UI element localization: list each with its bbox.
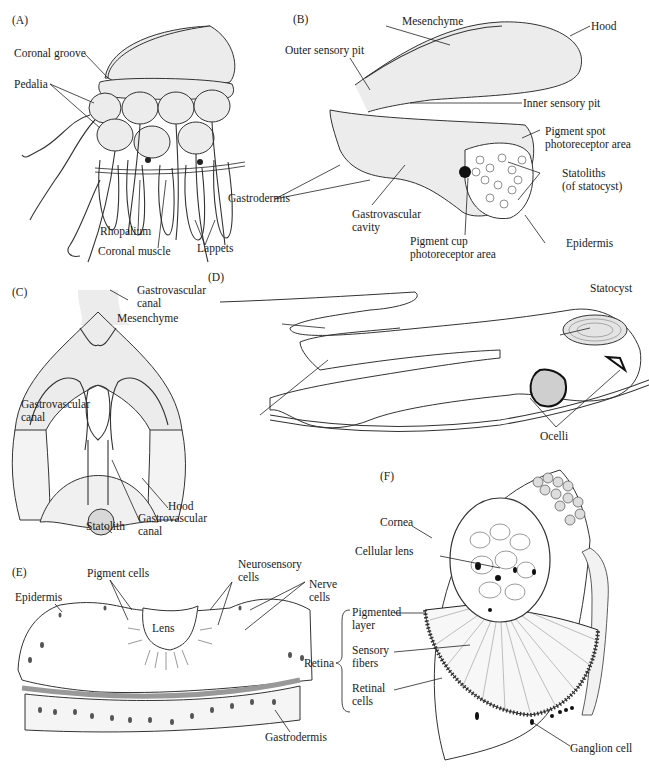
label-pigment-spot: Pigment spot <box>545 125 605 138</box>
panel-b: (B) Mesenchyme Hood Outer sensory pit In… <box>290 0 649 290</box>
label-layer: layer <box>352 619 375 632</box>
label-retina: Retina <box>304 657 334 670</box>
label-of-statocyst: (of statocyst) <box>562 180 622 193</box>
label-hood-b: Hood <box>591 20 617 33</box>
label-pigment-cells: Pigment cells <box>87 567 149 580</box>
label-gastrovascular-c-top: Gastrovascular <box>137 284 206 297</box>
label-canal-d: canal <box>21 411 45 424</box>
label-gastrodermis-b: Gastrodermis <box>228 192 290 205</box>
panel-c-tag: (C) <box>12 286 27 298</box>
label-coronal-muscle: Coronal muscle <box>98 245 171 258</box>
label-gastrovascular-b: Gastrovascular <box>352 208 421 221</box>
label-pedalia: Pedalia <box>14 78 48 91</box>
label-statocyst: Statocyst <box>590 282 632 295</box>
label-mesenchyme-d: Mesenchyme <box>117 312 178 325</box>
label-cavity-b: cavity <box>352 221 380 234</box>
panel-a-tag: (A) <box>12 14 28 26</box>
label-pigment-cup-area: photoreceptor area <box>410 248 496 261</box>
panel-c: (C) Gastrovascular canal Hood Statolith … <box>0 290 220 570</box>
panel-d-tag: (D) <box>208 271 224 283</box>
label-sensory: Sensory <box>352 644 389 657</box>
panel-f-tag: (F) <box>380 470 394 482</box>
label-nerve: Nerve <box>309 578 337 591</box>
panel-e-tag: (E) <box>12 566 27 578</box>
label-pigment-cup: Pigment cup <box>410 235 468 248</box>
label-gastrovascular-d: Gastrovascular <box>21 398 90 411</box>
label-pigment-spot-area: photoreceptor area <box>545 138 631 151</box>
panel-b-tag: (B) <box>293 13 308 25</box>
label-pigmented: Pigmented <box>352 606 401 619</box>
label-canal-c-bottom: canal <box>138 525 162 538</box>
panel-a: (A) Coronal groove Pedalia Rhopalium Cor… <box>0 0 290 290</box>
label-neurosensory-cells: cells <box>238 571 259 584</box>
ocelli-section-drawing <box>200 280 649 470</box>
label-coronal-groove: Coronal groove <box>14 47 86 60</box>
label-canal-c-top: canal <box>137 297 161 310</box>
label-gastrodermis-e: Gastrodermis <box>265 731 327 744</box>
label-epidermis-b: Epidermis <box>566 237 613 250</box>
panel-f: (F) Cornea Cellular lens Pigmented layer… <box>370 460 649 769</box>
panel-d: (D) Statocyst Mesenchyme Gastrovascular … <box>200 280 649 470</box>
label-neurosensory: Neurosensory <box>238 558 302 571</box>
label-epidermis-e: Epidermis <box>15 591 62 604</box>
label-ganglion-cell: Ganglion cell <box>570 742 632 755</box>
label-gastrovascular-c-bottom: Gastrovascular <box>138 512 207 525</box>
label-lens-e: Lens <box>152 622 174 635</box>
label-retinal-cells: cells <box>352 695 373 708</box>
label-cornea: Cornea <box>380 516 413 529</box>
label-retinal: Retinal <box>352 682 385 695</box>
label-cellular-lens: Cellular lens <box>355 545 413 558</box>
label-rhopalium: Rhopalium <box>100 225 151 238</box>
label-nerve-cells: cells <box>309 591 330 604</box>
label-statolith-c: Statolith <box>86 520 125 533</box>
label-ocelli: Ocelli <box>540 430 568 443</box>
label-outer-sensory-pit: Outer sensory pit <box>285 44 364 57</box>
label-lappets: Lappets <box>197 242 233 255</box>
label-mesenchyme-b: Mesenchyme <box>402 15 463 28</box>
label-inner-sensory-pit: Inner sensory pit <box>523 97 600 110</box>
label-statoliths: Statoliths <box>562 167 605 180</box>
camera-eye-drawing <box>370 460 649 769</box>
label-fibers: fibers <box>352 657 378 670</box>
